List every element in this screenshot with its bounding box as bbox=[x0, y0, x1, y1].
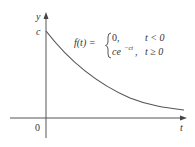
case1-condition: t < 0 bbox=[145, 32, 165, 43]
origin-label: 0 bbox=[35, 122, 40, 133]
c-label: c bbox=[36, 26, 41, 37]
brace-icon bbox=[106, 33, 112, 58]
y-axis-arrow-icon bbox=[44, 12, 49, 19]
case2-comma: , bbox=[135, 46, 138, 57]
y-axis-label: y bbox=[35, 11, 41, 22]
case2-base: ce bbox=[112, 46, 121, 57]
x-axis-label: t bbox=[180, 122, 183, 133]
case2-condition: t ≥ 0 bbox=[145, 46, 163, 57]
chart-svg: y c 0 t f(t) = 0, t < 0 ce −ct , t ≥ 0 bbox=[0, 0, 195, 147]
function-lhs: f(t) = bbox=[74, 37, 95, 49]
case2-exponent: −ct bbox=[124, 44, 133, 51]
case1-expr: 0, bbox=[112, 32, 120, 43]
chart-figure: y c 0 t f(t) = 0, t < 0 ce −ct , t ≥ 0 bbox=[0, 0, 195, 147]
x-axis-arrow-icon bbox=[180, 116, 187, 121]
